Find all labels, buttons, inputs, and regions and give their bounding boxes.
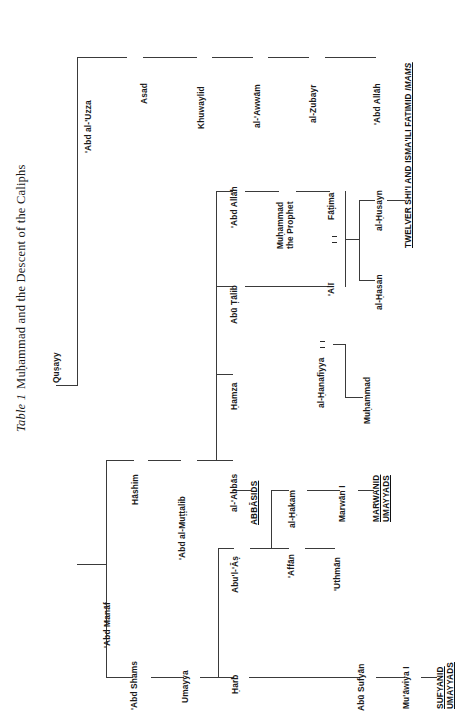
connector-qusayy-bus: [77, 57, 78, 386]
connector-harb-abusufyan: [249, 677, 360, 678]
connector-abulas-out: [250, 548, 272, 549]
group-label-abbasids-text: ABBĀSIDS: [250, 481, 259, 525]
node-al-awwam: al-'Awwām: [253, 84, 262, 128]
connector-alhakam-marwan: [307, 490, 340, 491]
connector-muhammad-fatima: [296, 191, 330, 192]
node-al-hakam: al-Ḥakam: [288, 490, 297, 528]
connector-asad-khuwaylid: [143, 57, 197, 58]
node-fatima: Fāṭima: [327, 192, 336, 220]
connector-marriage-ali-hanafiyya: [345, 344, 346, 398]
connector-hanafiyya-muhammad: [345, 397, 363, 398]
node-al-zubayr: al-Zubayr: [309, 84, 318, 123]
group-label-twelver-imams: IMAMS: [404, 63, 413, 91]
node-affan: 'Affān: [287, 554, 296, 578]
node-abd-al-uzza: 'Abd al-'Uzza: [84, 100, 93, 153]
node-al-husayn: al-Ḥusayn: [375, 190, 384, 231]
genealogy-chart: Quṣayy 'Abd al-'Uzza Asad Khuwaylid al-'…: [0, 0, 462, 717]
connector-child-hamza: [216, 374, 233, 375]
group-label-marwanid-line2: UMAYYADS: [382, 475, 391, 522]
connector-abdallah-muhammad: [245, 191, 279, 192]
group-label-sufyanid-line1: SUFYANID: [436, 666, 445, 709]
marriage-symbol-fatima-ali: [332, 236, 337, 243]
node-abd-al-muttalib: 'Abd al-Muṭṭalib: [178, 496, 187, 560]
connector-child-abbas: [216, 460, 233, 461]
group-label-sufyanid-line2: UMAYYADS: [446, 662, 455, 709]
group-label-abbasids: ABBĀSIDS: [250, 481, 260, 525]
connector-abutalib-ali: [245, 286, 330, 287]
connector-hasanhusayn-bus: [359, 200, 360, 280]
connector-abdmuttalib-childbus: [216, 191, 217, 461]
connector-abdmanaf-stub: [77, 564, 107, 565]
node-marwan: Marwān I: [338, 485, 347, 522]
marriage-symbol-ali-hanafiyya: [320, 341, 325, 348]
connector-hashim-abdmuttalib: [148, 460, 181, 461]
group-label-marwanid-umayyads: MARWANID UMAYYADS: [372, 475, 393, 522]
node-muawiya: Mu'āwiya I: [402, 666, 411, 709]
connector-khuwaylid-awwam: [212, 57, 253, 58]
group-label-sufyanid-umayyads: SUFYANID UMAYYADS: [436, 662, 457, 709]
connector-marriage-hanafiyya-tick: [333, 344, 345, 345]
node-umayya: Umayya: [181, 670, 190, 703]
connector-awwam-zubayr: [268, 57, 309, 58]
group-label-marwanid-line1: MARWANID: [372, 475, 381, 522]
node-harb: Ḥarb: [231, 675, 240, 694]
connector-husayn-twelver: [387, 200, 405, 201]
node-muhammad-the-prophet: Muḥammad the Prophet: [276, 201, 295, 249]
connector-muawiya-sufyanid: [421, 677, 437, 678]
node-ali: 'Alī: [327, 283, 336, 296]
node-asad: Asad: [140, 83, 149, 104]
node-abd-shams: 'Abd Shams: [130, 661, 139, 710]
connector-child-affan: [271, 548, 289, 549]
node-khuwaylid: Khuwaylid: [197, 86, 206, 129]
node-abul-as: Abu'l-'Āṣ: [231, 556, 240, 593]
connector-zubayr-abdallah: [325, 57, 376, 58]
connector-affan-uthman: [305, 548, 335, 549]
connector-uzza-asad: [77, 57, 127, 58]
node-abu-sufyan: Abū Sufyān: [357, 663, 366, 711]
group-label-twelver-shii: TWELVER SHI'I AND ISMA'ILI FATIMID IMAMS: [404, 63, 414, 249]
connector-umayya-out: [200, 677, 219, 678]
node-muhammad-line2: the Prophet: [286, 201, 296, 249]
node-qusayy: Quṣayy: [52, 352, 61, 383]
node-hashim: Hāshim: [131, 474, 140, 505]
node-al-hanafiyya: al-Ḥanafiyya: [317, 357, 326, 408]
connector-abulas-childbus: [271, 490, 272, 549]
connector-child-abulas: [218, 548, 234, 549]
connector-qusayy-stub: [56, 385, 78, 386]
node-al-hasan: al-Ḥasan: [375, 274, 384, 310]
node-hamza: Ḥamza: [230, 383, 239, 411]
connector-to-husayn: [359, 200, 375, 201]
connector-abdmuttalib-out: [197, 460, 217, 461]
node-abu-talib: Abū Ṭālib: [230, 285, 239, 324]
node-al-abbas: al-'Abbās: [230, 474, 239, 512]
node-abd-manaf: 'Abd Manāf: [103, 602, 112, 648]
node-uthman: 'Uthmān: [333, 557, 342, 591]
group-label-twelver-text: TWELVER SHI'I AND ISMA'ILI FATIMID IMAMS: [404, 63, 413, 249]
connector-hashim-in: [106, 460, 134, 461]
connector-to-hasan: [359, 280, 375, 281]
node-muhammad-ibn-al-hanafiyya: Muḥammad: [363, 377, 372, 424]
group-label-twelver-line1: TWELVER SHI'I AND ISMA'ILI FATIMID: [404, 91, 413, 248]
node-abd-allah-zubayr: 'Abd Allāh: [373, 83, 382, 125]
node-abd-allah: 'Abd Allāh: [230, 186, 239, 228]
connector-umayya-childbus: [218, 548, 219, 678]
connector-marriage-tick: [345, 239, 359, 240]
